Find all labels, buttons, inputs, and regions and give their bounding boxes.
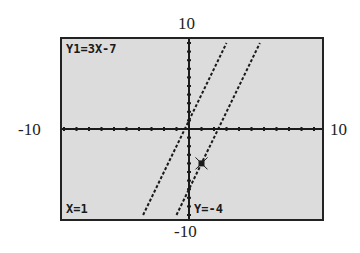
calculator-graph-screen: Y1=3X-7 X=1 Y=-4	[60, 37, 324, 221]
xmin-label: -10	[18, 120, 41, 140]
graph-plot	[62, 39, 322, 219]
y-readout: Y=-4	[194, 202, 223, 216]
ymax-label: 10	[178, 14, 195, 34]
x-readout: X=1	[66, 202, 88, 216]
ymin-label: -10	[174, 222, 197, 242]
xmax-label: 10	[330, 120, 347, 140]
function-label: Y1=3X-7	[66, 42, 117, 56]
